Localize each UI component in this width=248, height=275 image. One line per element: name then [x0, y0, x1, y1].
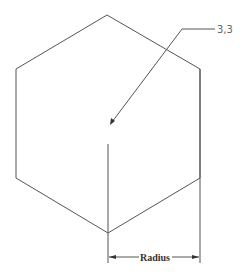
dimension-arrow-left-icon: [109, 255, 116, 259]
dimension-arrow-right-icon: [192, 255, 199, 259]
leader-label: 3,3: [217, 24, 233, 35]
dimension-label: Radius: [140, 252, 170, 263]
diagram-canvas: 3,3 Radius: [0, 0, 248, 275]
